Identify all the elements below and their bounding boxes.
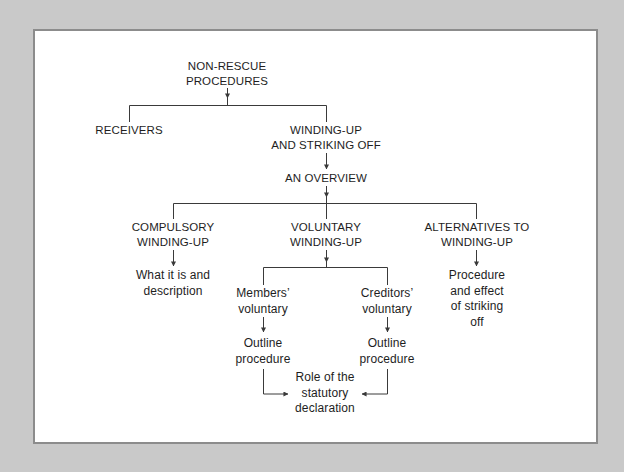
node-line: voluntary: [236, 302, 289, 318]
node-line: declaration: [295, 401, 355, 417]
node-line: WINDING-UP: [290, 235, 362, 250]
node-line: procedure: [236, 352, 291, 368]
node-line: WINDING-UP: [425, 235, 530, 250]
node-line: AN OVERVIEW: [285, 171, 367, 186]
node-line: voluntary: [361, 302, 413, 318]
node-winding-up-and-striking-off: WINDING-UP AND STRIKING OFF: [271, 123, 381, 153]
node-line: description: [136, 284, 210, 300]
node-non-rescue-procedures: NON-RESCUE PROCEDURES: [186, 59, 268, 89]
node-an-overview: AN OVERVIEW: [285, 171, 367, 186]
node-voluntary-winding-up: VOLUNTARY WINDING-UP: [290, 220, 362, 250]
node-line: What it is and: [136, 268, 210, 284]
node-compulsory-winding-up: COMPULSORY WINDING-UP: [132, 220, 215, 250]
node-line: PROCEDURES: [186, 74, 268, 89]
node-line: AND STRIKING OFF: [271, 138, 381, 153]
node-line: and effect: [449, 284, 505, 300]
node-line: Procedure: [449, 268, 505, 284]
node-creditors-voluntary: Creditors’ voluntary: [361, 286, 413, 317]
node-role-of-statutory-declaration: Role of the statutory declaration: [295, 370, 355, 417]
node-line: Outline: [236, 336, 291, 352]
node-alternatives-to-winding-up: ALTERNATIVES TO WINDING-UP: [425, 220, 530, 250]
node-line: Creditors’: [361, 286, 413, 302]
node-line: WINDING-UP: [271, 123, 381, 138]
node-line: off: [449, 315, 505, 331]
node-line: VOLUNTARY: [290, 220, 362, 235]
node-receivers: RECEIVERS: [95, 123, 162, 138]
node-what-it-is-and-description: What it is and description: [136, 268, 210, 299]
node-line: COMPULSORY: [132, 220, 215, 235]
node-line: WINDING-UP: [132, 235, 215, 250]
node-creditors-outline-procedure: Outline procedure: [360, 336, 415, 367]
node-line: RECEIVERS: [95, 123, 162, 138]
node-line: Role of the: [295, 370, 355, 386]
node-line: Members’: [236, 286, 289, 302]
node-line: Outline: [360, 336, 415, 352]
node-members-outline-procedure: Outline procedure: [236, 336, 291, 367]
node-line: procedure: [360, 352, 415, 368]
node-line: ALTERNATIVES TO: [425, 220, 530, 235]
node-members-voluntary: Members’ voluntary: [236, 286, 289, 317]
node-line: of striking: [449, 299, 505, 315]
node-line: NON-RESCUE: [186, 59, 268, 74]
node-procedure-and-effect-of-striking-off: Procedure and effect of striking off: [449, 268, 505, 330]
node-line: statutory: [295, 386, 355, 402]
